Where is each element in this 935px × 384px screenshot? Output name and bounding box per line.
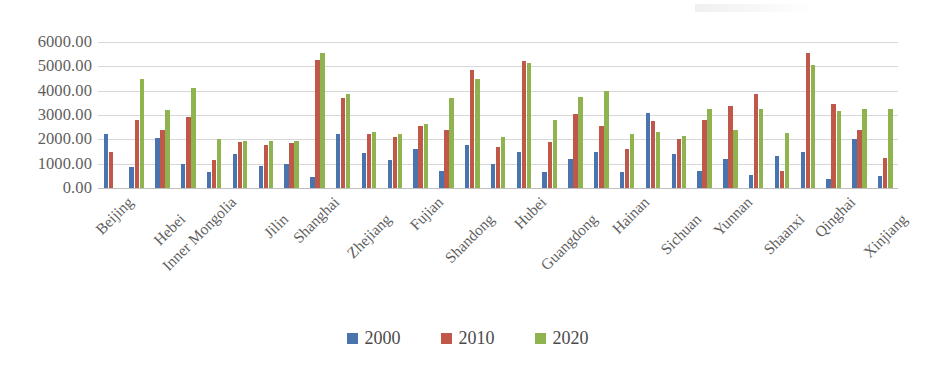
bar-2000 [233, 154, 237, 188]
bar-2020 [811, 65, 815, 188]
bar-group [150, 42, 176, 188]
bar-2020 [294, 141, 298, 188]
bar-2000 [594, 152, 598, 189]
bar-group [227, 42, 253, 188]
x-axis-tick-label: Sichuan [657, 211, 703, 257]
bar-group [382, 42, 408, 188]
bar-2000 [388, 160, 392, 188]
bar-2010 [573, 114, 577, 188]
bar-group [434, 42, 460, 188]
y-axis-tick-label: 6000.00 [38, 34, 92, 51]
bar-2010 [548, 142, 552, 188]
bar-2000 [491, 164, 495, 188]
bar-2010 [522, 61, 526, 188]
bar-2010 [264, 145, 268, 188]
bar-2010 [160, 130, 164, 188]
bar-2010 [186, 117, 190, 188]
bar-2020 [862, 109, 866, 188]
x-axis-tick-label: Shaanxi [761, 211, 807, 257]
bar-group [330, 42, 356, 188]
x-axis-tick-label: Hainan [609, 194, 652, 237]
bar-2010 [470, 70, 474, 188]
x-axis-tick-label: Hubei [511, 194, 549, 232]
bar-2000 [620, 172, 624, 188]
axis-baseline [98, 188, 898, 189]
bar-chart: 0.001000.002000.003000.004000.005000.006… [0, 0, 935, 384]
bar-2020 [269, 141, 273, 188]
y-axis-tick-label: 1000.00 [38, 155, 92, 172]
bar-group [175, 42, 201, 188]
chart-legend: 200020102020 [0, 329, 935, 347]
y-axis-tick-label: 5000.00 [38, 58, 92, 75]
bar-2020 [346, 94, 350, 188]
legend-item-2020[interactable]: 2020 [535, 329, 589, 347]
bar-group [588, 42, 614, 188]
x-axis-tick-label: Shanghai [291, 194, 343, 246]
bar-2010 [728, 106, 732, 188]
bar-2000 [775, 156, 779, 188]
legend-label: 2020 [553, 329, 589, 347]
bar-2020 [837, 111, 841, 188]
bar-group [485, 42, 511, 188]
bar-2000 [878, 176, 882, 188]
bar-2010 [418, 126, 422, 188]
bar-2020 [398, 134, 402, 188]
bar-group [847, 42, 873, 188]
bar-2000 [104, 134, 108, 188]
bar-2000 [826, 179, 830, 188]
bar-2000 [542, 172, 546, 188]
y-axis-tick-label: 0.00 [63, 180, 92, 197]
bar-2020 [682, 136, 686, 188]
bar-2010 [289, 143, 293, 188]
bar-2020 [501, 137, 505, 188]
bar-group [821, 42, 847, 188]
bar-2000 [646, 113, 650, 188]
x-axis-tick-label: Guangdong [538, 211, 600, 273]
bar-2010 [857, 130, 861, 188]
bar-2010 [677, 139, 681, 188]
x-axis-tick-label: Jilin [261, 211, 291, 241]
bar-2020 [475, 79, 479, 189]
bar-2000 [413, 149, 417, 188]
x-axis-labels: BeijingHebeiInner MongoliaJilinShanghaiZ… [98, 190, 898, 300]
bar-2020 [449, 98, 453, 188]
bar-groups [98, 42, 898, 188]
bar-group [124, 42, 150, 188]
legend-item-2000[interactable]: 2000 [347, 329, 401, 347]
x-axis-tick-label: Qinghai [812, 194, 858, 240]
bar-2000 [207, 172, 211, 188]
bar-2010 [341, 98, 345, 188]
bar-group [666, 42, 692, 188]
scan-artifact [695, 4, 815, 12]
bar-2020 [320, 53, 324, 188]
y-axis-tick-label: 4000.00 [38, 82, 92, 99]
bar-2000 [852, 139, 856, 188]
bar-2010 [599, 126, 603, 188]
bar-2010 [212, 160, 216, 188]
bar-2020 [888, 109, 892, 188]
x-axis-tick-label: Zhejiang [344, 211, 394, 261]
bar-2000 [129, 167, 133, 188]
bar-2010 [109, 152, 113, 189]
legend-label: 2010 [459, 329, 495, 347]
bar-2010 [883, 158, 887, 188]
bar-group [201, 42, 227, 188]
bar-2000 [439, 171, 443, 188]
bar-2020 [217, 139, 221, 188]
bar-2020 [733, 130, 737, 188]
bar-2020 [707, 109, 711, 188]
bar-2020 [656, 132, 660, 188]
bar-group [614, 42, 640, 188]
bar-2020 [243, 141, 247, 188]
x-axis-tick-label: Xinjiang [861, 211, 910, 260]
bar-2020 [424, 124, 428, 188]
bar-group [408, 42, 434, 188]
y-axis-tick-label: 3000.00 [38, 107, 92, 124]
legend-item-2010[interactable]: 2010 [441, 329, 495, 347]
bar-2010 [393, 137, 397, 188]
bar-2010 [702, 120, 706, 188]
bar-2010 [315, 60, 319, 188]
bar-2000 [465, 145, 469, 188]
bar-group [718, 42, 744, 188]
bar-group [692, 42, 718, 188]
